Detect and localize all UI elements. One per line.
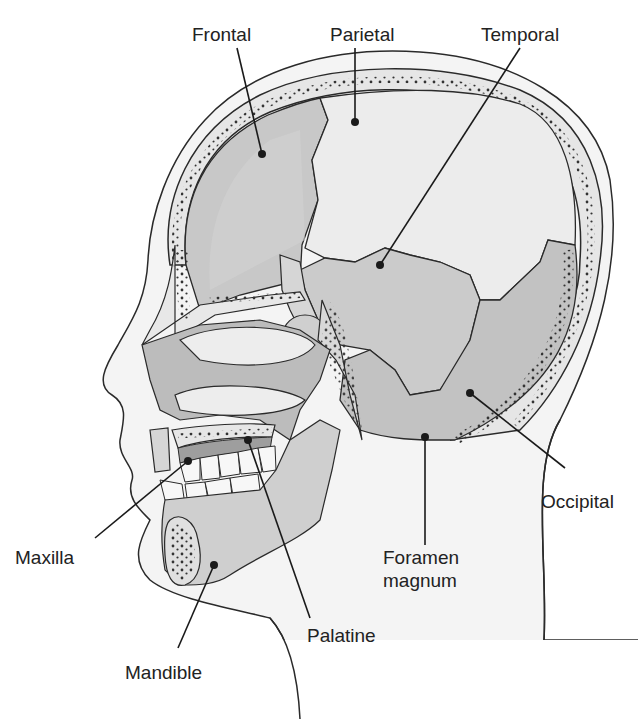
label-maxilla: Maxilla (15, 547, 74, 569)
label-temporal: Temporal (481, 24, 559, 46)
label-foramen-magnum-line1: Foramen (383, 547, 459, 569)
label-frontal: Frontal (192, 24, 251, 46)
label-parietal: Parietal (330, 24, 394, 46)
label-occipital: Occipital (541, 491, 614, 513)
label-palatine: Palatine (307, 625, 376, 647)
label-foramen-magnum-line2: magnum (383, 570, 457, 592)
skull-diagram: Frontal Parietal Temporal Occipital Maxi… (0, 0, 638, 719)
skull-illustration (0, 0, 638, 719)
label-mandible: Mandible (125, 662, 202, 684)
